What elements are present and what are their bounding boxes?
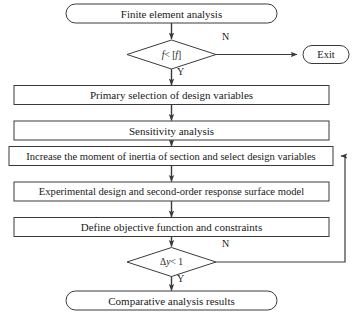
node-increase-inertia-shape	[9, 147, 333, 166]
node-experimental-design-shape	[14, 182, 329, 201]
edge-feedback-loop	[216, 156, 345, 262]
node-exit-shape	[303, 46, 349, 64]
node-end-shape	[66, 291, 277, 310]
node-decision-convergence-shape	[127, 248, 216, 277]
flowchart-canvas: Finite element analysis f < [f] N Y Exit…	[0, 0, 354, 314]
node-sensitivity-shape	[14, 121, 329, 140]
node-start-shape	[66, 4, 277, 23]
node-primary-selection-shape	[14, 86, 329, 105]
flowchart-graphics	[0, 0, 354, 314]
node-define-objective-shape	[14, 218, 329, 237]
node-decision-stress-shape	[127, 40, 216, 69]
